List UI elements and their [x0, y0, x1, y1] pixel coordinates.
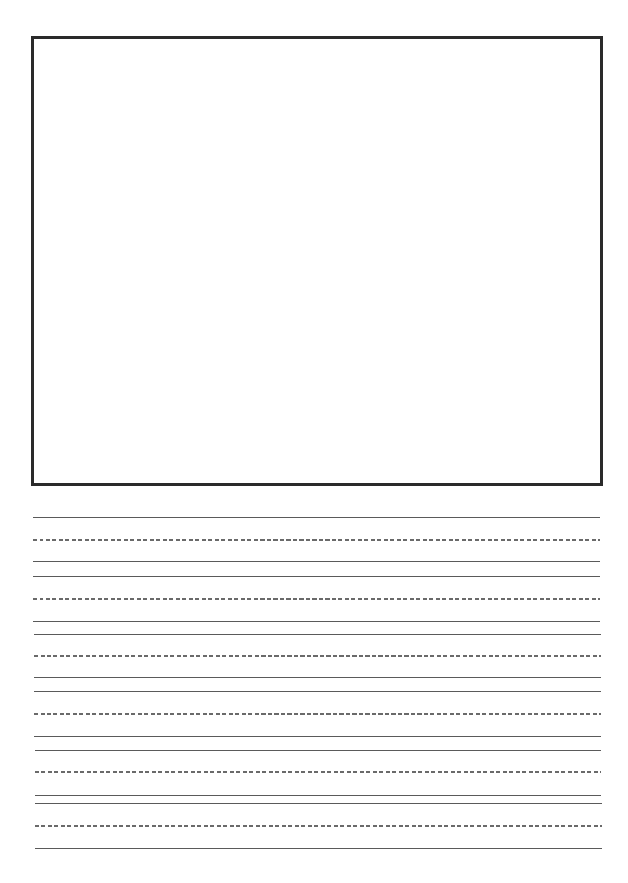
- baseline: [33, 621, 600, 622]
- midline: [35, 771, 601, 773]
- baseline: [34, 677, 601, 678]
- baseline: [35, 795, 601, 796]
- midline: [33, 598, 600, 600]
- top-line: [33, 576, 600, 577]
- midline: [33, 539, 600, 541]
- midline: [35, 825, 602, 827]
- top-line: [34, 691, 601, 692]
- baseline: [34, 736, 601, 737]
- top-line: [34, 634, 601, 635]
- top-line: [35, 803, 602, 804]
- midline: [34, 655, 601, 657]
- drawing-area[interactable]: [31, 36, 603, 486]
- baseline: [35, 848, 602, 849]
- top-line: [33, 517, 600, 518]
- top-line: [35, 750, 601, 751]
- baseline: [33, 561, 600, 562]
- midline: [34, 713, 601, 715]
